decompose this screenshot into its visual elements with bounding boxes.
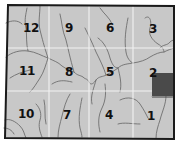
section-label-7[interactable]: 7 bbox=[63, 109, 71, 121]
section-label-9[interactable]: 9 bbox=[65, 22, 73, 34]
section-label-5[interactable]: 5 bbox=[106, 66, 114, 78]
section-label-10[interactable]: 10 bbox=[18, 108, 34, 120]
section-label-12[interactable]: 12 bbox=[23, 22, 39, 34]
section-label-8[interactable]: 8 bbox=[65, 66, 73, 78]
section-label-1[interactable]: 1 bbox=[147, 110, 155, 122]
section-label-6[interactable]: 6 bbox=[106, 22, 114, 34]
section-label-3[interactable]: 3 bbox=[149, 23, 157, 35]
section-label-11[interactable]: 11 bbox=[19, 65, 35, 77]
section-label-4[interactable]: 4 bbox=[105, 109, 113, 121]
section-label-2[interactable]: 2 bbox=[149, 67, 157, 79]
